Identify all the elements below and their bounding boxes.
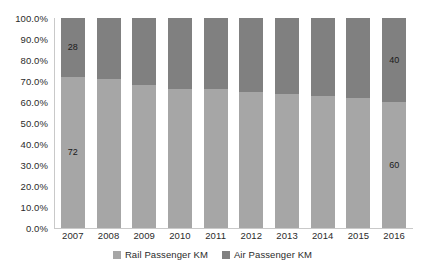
- y-axis-tick-label: 100.0%: [15, 13, 48, 24]
- bar-segment-rail[interactable]: [346, 98, 370, 228]
- bar-group[interactable]: [97, 18, 121, 228]
- x-axis-tick-label: 2014: [303, 230, 343, 241]
- bar-segment-rail[interactable]: [275, 94, 299, 228]
- x-axis-tick-label: 2016: [374, 230, 414, 241]
- legend-label: Rail Passenger KM: [125, 249, 208, 260]
- x-axis-tick-label: 2009: [124, 230, 164, 241]
- legend-swatch-icon: [113, 251, 121, 259]
- bar-segment-rail[interactable]: [132, 85, 156, 228]
- x-axis-line: [54, 228, 413, 229]
- bar-data-label: 40: [389, 56, 399, 65]
- x-axis-tick-label: 2008: [89, 230, 129, 241]
- bar-segment-rail[interactable]: [97, 79, 121, 228]
- legend-swatch-icon: [222, 251, 230, 259]
- bar-data-label: 28: [68, 43, 78, 52]
- x-axis-tick-label: 2015: [338, 230, 378, 241]
- bar-segment-air[interactable]: [168, 18, 192, 89]
- y-axis: 0.0%10.0%20.0%30.0%40.0%50.0%60.0%70.0%8…: [0, 18, 52, 228]
- legend-item[interactable]: Air Passenger KM: [222, 249, 312, 260]
- x-axis-tick-label: 2010: [160, 230, 200, 241]
- y-axis-tick-label: 20.0%: [21, 181, 48, 192]
- bar-group[interactable]: 2872: [61, 18, 85, 228]
- y-axis-tick-label: 80.0%: [21, 55, 48, 66]
- bar-segment-air[interactable]: [204, 18, 228, 89]
- bar-segment-rail[interactable]: [239, 92, 263, 229]
- chart-legend: Rail Passenger KMAir Passenger KM: [0, 249, 425, 260]
- legend-item[interactable]: Rail Passenger KM: [113, 249, 208, 260]
- y-axis-tick-label: 10.0%: [21, 202, 48, 213]
- bar-group[interactable]: [168, 18, 192, 228]
- x-axis-tick-label: 2012: [231, 230, 271, 241]
- bar-data-label: 72: [68, 148, 78, 157]
- bar-group[interactable]: [275, 18, 299, 228]
- bar-group[interactable]: [311, 18, 335, 228]
- y-axis-tick-label: 70.0%: [21, 76, 48, 87]
- y-axis-tick-label: 60.0%: [21, 97, 48, 108]
- bar-group[interactable]: [204, 18, 228, 228]
- bar-segment-air[interactable]: [239, 18, 263, 92]
- stacked-bar-chart: 0.0%10.0%20.0%30.0%40.0%50.0%60.0%70.0%8…: [0, 0, 425, 271]
- y-axis-tick-label: 0.0%: [26, 223, 48, 234]
- bar-segment-rail[interactable]: [168, 89, 192, 228]
- plot-area: 28724060: [55, 18, 412, 228]
- bar-segment-rail[interactable]: [311, 96, 335, 228]
- y-axis-tick-label: 50.0%: [21, 118, 48, 129]
- bar-segment-air[interactable]: 40: [382, 18, 406, 102]
- bar-segment-rail[interactable]: 60: [382, 102, 406, 228]
- bar-segment-air[interactable]: [346, 18, 370, 98]
- bar-segment-rail[interactable]: [204, 89, 228, 228]
- bar-group[interactable]: [346, 18, 370, 228]
- bar-segment-air[interactable]: [311, 18, 335, 96]
- bar-segment-rail[interactable]: 72: [61, 77, 85, 228]
- x-axis: 2007200820092010201120122013201420152016: [55, 230, 412, 246]
- bar-segment-air[interactable]: [132, 18, 156, 85]
- y-axis-tick-label: 40.0%: [21, 139, 48, 150]
- x-axis-tick-label: 2013: [267, 230, 307, 241]
- bar-segment-air[interactable]: [275, 18, 299, 94]
- y-axis-tick-label: 90.0%: [21, 34, 48, 45]
- y-axis-tick-label: 30.0%: [21, 160, 48, 171]
- x-axis-tick-label: 2011: [196, 230, 236, 241]
- bar-group[interactable]: 4060: [382, 18, 406, 228]
- bar-data-label: 60: [389, 161, 399, 170]
- bar-segment-air[interactable]: [97, 18, 121, 79]
- x-axis-tick-label: 2007: [53, 230, 93, 241]
- legend-label: Air Passenger KM: [234, 249, 312, 260]
- bar-group[interactable]: [239, 18, 263, 228]
- bar-group[interactable]: [132, 18, 156, 228]
- bar-segment-air[interactable]: 28: [61, 18, 85, 77]
